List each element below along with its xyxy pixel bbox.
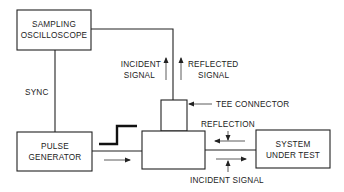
incident-signal-upper-label-line2: SIGNAL (124, 71, 155, 80)
oscilloscope-label-line2: OSCILLOSCOPE (21, 31, 88, 40)
oscilloscope-label-line1: SAMPLING (32, 20, 76, 29)
pulse-generator-label-line2: GENERATOR (29, 153, 82, 162)
incident-signal-upper-label-line1: INCIDENT (121, 60, 161, 69)
pulse-generator-label-line1: PULSE (41, 142, 69, 151)
tdr-diagram: SAMPLING OSCILLOSCOPE SYNC INCIDENT SIGN… (0, 0, 344, 192)
sut-label-line1: SYSTEM (276, 140, 311, 149)
system-under-test-block: SYSTEM UNDER TEST (256, 130, 330, 168)
pulse-generator-block: PULSE GENERATOR (17, 132, 92, 171)
step-waveform-icon (99, 126, 137, 144)
junction-block (142, 131, 205, 169)
reflection-label: REFLECTION (201, 120, 255, 129)
sync-label: SYNC (25, 88, 49, 97)
sampling-oscilloscope-block: SAMPLING OSCILLOSCOPE (17, 10, 91, 50)
incident-signal-lower-label: INCIDENT SIGNAL (190, 176, 264, 185)
reflected-signal-upper-label-line1: REFLECTED (188, 60, 238, 69)
tee-connector-label: TEE CONNECTOR (216, 100, 289, 109)
reflected-signal-upper-label-line2: SIGNAL (198, 71, 229, 80)
tee-connector-block (161, 100, 187, 131)
sut-label-line2: UNDER TEST (266, 151, 320, 160)
